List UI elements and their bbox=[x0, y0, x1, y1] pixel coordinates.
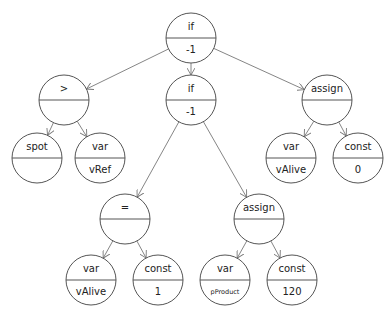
tree-node-const: const1 bbox=[133, 255, 183, 305]
tree-node-if: if-1 bbox=[166, 75, 216, 125]
tree-node-var: varpProduct bbox=[200, 255, 250, 305]
node-value-label: vRef bbox=[89, 164, 112, 175]
tree-node-spot: spot bbox=[12, 133, 62, 183]
node-type-label: assign bbox=[243, 202, 275, 213]
node-type-label: const bbox=[144, 263, 171, 274]
node-value-label: 1 bbox=[155, 286, 161, 297]
node-value-label: 120 bbox=[282, 286, 301, 297]
node-type-label: spot bbox=[26, 141, 48, 152]
edge-arrow bbox=[137, 122, 179, 197]
edge-arrow bbox=[86, 49, 168, 89]
tree-node-var: varvRef bbox=[75, 133, 125, 183]
node-type-label: var bbox=[83, 263, 100, 274]
tree-node-var: varvAlive bbox=[266, 133, 316, 183]
node-type-label: const bbox=[344, 141, 371, 152]
node-value-label: -1 bbox=[186, 106, 196, 117]
edge-arrow bbox=[304, 121, 314, 137]
node-type-label: var bbox=[92, 141, 109, 152]
edge-arrow bbox=[77, 121, 87, 137]
edge-arrow bbox=[203, 122, 246, 198]
tree-node-assign: assign bbox=[302, 75, 352, 125]
edge-arrow bbox=[103, 241, 113, 258]
tree-node-var: varvAlive bbox=[66, 255, 116, 305]
node-type-label: assign bbox=[311, 83, 343, 94]
node-value-label: pProduct bbox=[211, 288, 240, 296]
node-type-label: var bbox=[217, 263, 234, 274]
node-type-label: if bbox=[188, 21, 195, 32]
node-value-label: -1 bbox=[186, 44, 196, 55]
tree-node-const: const120 bbox=[267, 255, 317, 305]
node-type-label: = bbox=[121, 202, 129, 213]
edge-arrow bbox=[137, 241, 146, 258]
tree-node-gt: > bbox=[39, 75, 89, 125]
node-value-label: vAlive bbox=[276, 164, 306, 175]
tree-node-if: if-1 bbox=[166, 13, 216, 63]
node-value-label: 0 bbox=[355, 164, 361, 175]
node-type-label: > bbox=[60, 83, 68, 94]
tree-node-const: const0 bbox=[333, 133, 383, 183]
node-type-label: var bbox=[283, 141, 300, 152]
edge-arrow bbox=[48, 123, 54, 136]
nodes-layer: if-1>if-1assignspotvarvRefvarvAliveconst… bbox=[12, 13, 383, 305]
edge-arrow bbox=[271, 241, 280, 258]
edge-arrow bbox=[214, 48, 305, 89]
edge-arrow bbox=[237, 241, 247, 258]
edge-arrow bbox=[339, 122, 346, 136]
tree-node-assign: assign bbox=[234, 194, 284, 244]
tree-node-eq: = bbox=[100, 194, 150, 244]
node-value-label: vAlive bbox=[76, 286, 106, 297]
expression-tree-diagram: if-1>if-1assignspotvarvRefvarvAliveconst… bbox=[0, 0, 391, 309]
node-type-label: const bbox=[278, 263, 305, 274]
node-type-label: if bbox=[188, 83, 195, 94]
